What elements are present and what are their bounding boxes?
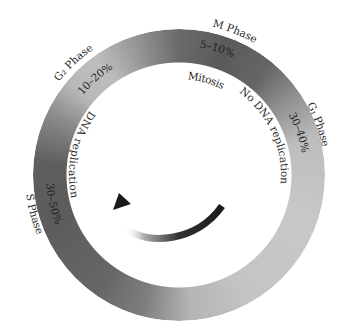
m-phase-label: M Phase [212,17,260,45]
g2-phase-percent: 10–20% [75,60,114,96]
arrow-shaft [125,206,222,238]
m-phase-percent: 5–10% [199,38,237,60]
labels-layer: M Phase 5–10% Mitosis G₂ Phase 10–20% G₁… [0,0,356,334]
m-phase-description: Mitosis [187,69,226,91]
s-phase-description: DNA replication [67,109,98,199]
arrow-head [113,193,131,210]
s-phase-label: S Phase [24,193,46,236]
cell-cycle-diagram: M Phase 5–10% Mitosis G₂ Phase 10–20% G₁… [0,0,356,334]
s-phase-percent: 30–50% [44,183,65,226]
g1-phase-percent: 30–40% [287,110,312,154]
counterclockwise-arrow-icon [113,193,222,238]
g1-phase-description: No DNA replication [238,85,291,185]
